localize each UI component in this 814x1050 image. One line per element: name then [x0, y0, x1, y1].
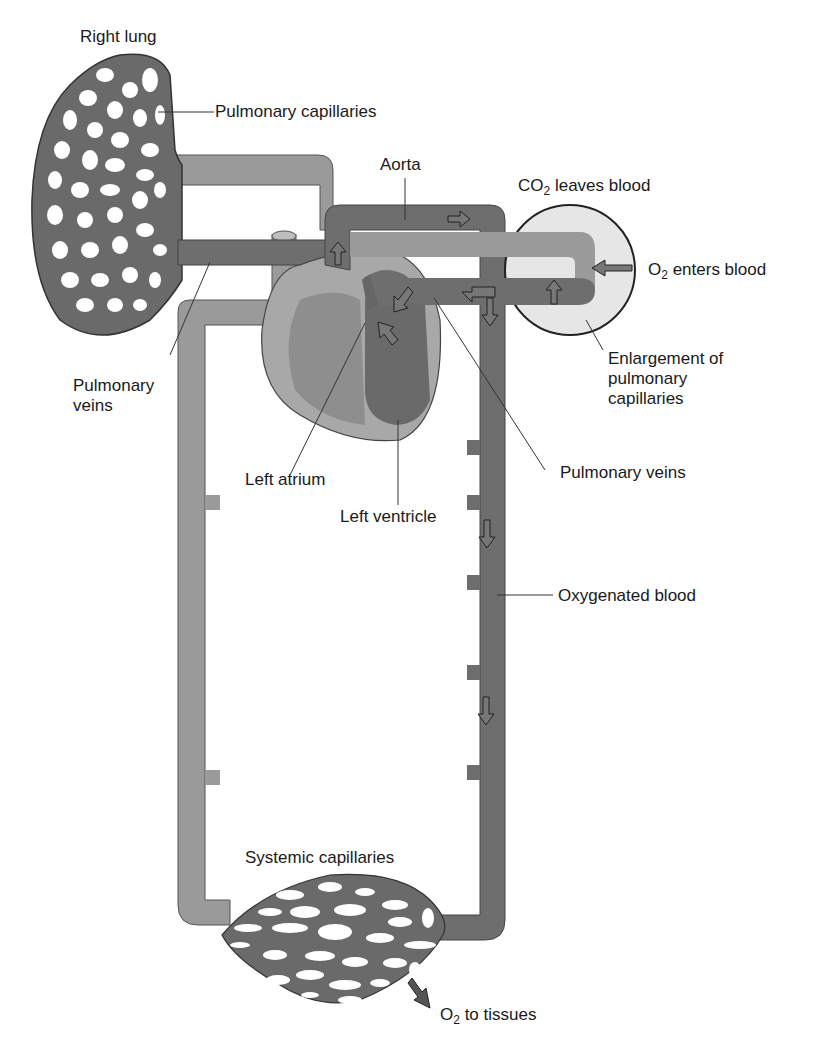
label-left-ventricle: Left ventricle [340, 507, 436, 527]
arrow-down-right-icon [408, 978, 430, 1008]
systemic-capillaries [222, 874, 445, 1008]
label-oxygenated-blood: Oxygenated blood [558, 586, 696, 606]
pulmonary-artery-tube [175, 155, 333, 230]
right-lung [32, 54, 182, 335]
label-aorta: Aorta [380, 155, 421, 175]
systemic-vein-tube [178, 300, 270, 925]
label-systemic-capillaries: Systemic capillaries [245, 848, 394, 868]
label-enlargement-of-pulmonary-capillaries: Enlargement of pulmonary capillaries [608, 349, 723, 409]
label-o2-to-tissues: O2 to tissues [440, 1005, 536, 1025]
label-pulmonary-veins-right: Pulmonary veins [560, 463, 686, 483]
label-o2-enters-blood: O2 enters blood [648, 260, 766, 280]
label-pulmonary-capillaries: Pulmonary capillaries [215, 102, 377, 122]
label-pulmonary-veins-left: Pulmonary veins [73, 376, 154, 416]
label-co2-leaves-blood: CO2 leaves blood [518, 176, 650, 196]
label-right-lung: Right lung [80, 27, 157, 47]
label-left-atrium: Left atrium [245, 470, 325, 490]
